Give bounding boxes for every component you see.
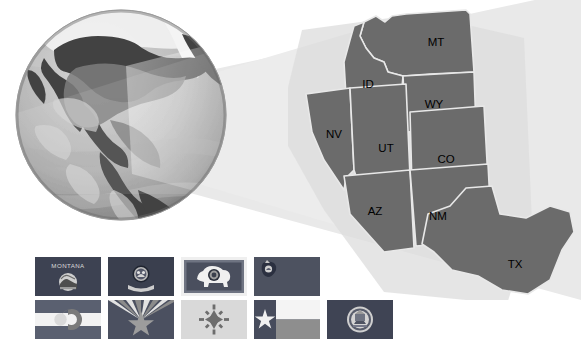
flag-montana[interactable]: MONTANA xyxy=(35,257,101,296)
state-flags-strip: MONTANA xyxy=(0,252,581,342)
state-shape-UT[interactable] xyxy=(350,84,410,182)
map-label-NV: NV xyxy=(326,128,342,140)
flag-new-mexico[interactable] xyxy=(181,300,247,339)
flag-utah-seal xyxy=(347,307,373,333)
flag-idaho-seal xyxy=(133,266,150,283)
flag-arizona[interactable] xyxy=(108,300,174,339)
map-label-WY: WY xyxy=(425,98,444,110)
map-label-UT: UT xyxy=(378,142,393,154)
flag-montana-caption: MONTANA xyxy=(51,262,85,269)
map-label-ID: ID xyxy=(362,78,374,90)
map-label-MT: MT xyxy=(428,36,445,48)
flag-texas[interactable] xyxy=(254,300,320,339)
flag-montana-seal xyxy=(59,273,77,291)
map-label-AZ: AZ xyxy=(368,205,383,217)
flag-idaho[interactable] xyxy=(108,257,174,296)
earth-globe xyxy=(14,4,228,226)
map-label-CO: CO xyxy=(437,153,454,165)
map-label-NM: NM xyxy=(429,210,447,222)
flag-colorado[interactable] xyxy=(35,300,101,339)
flag-utah[interactable] xyxy=(327,300,393,339)
flag-wyoming[interactable] xyxy=(181,257,247,296)
figure-canvas: MT ID WY NV UT CO AZ NM TX MONTANA xyxy=(0,0,581,342)
flag-nevada[interactable] xyxy=(254,257,320,296)
